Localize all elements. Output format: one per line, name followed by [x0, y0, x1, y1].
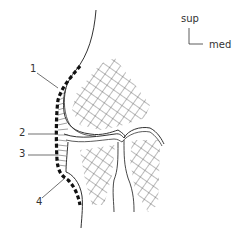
leader-4: [42, 178, 65, 198]
label-4: 4: [36, 197, 42, 207]
label-1: 1: [30, 64, 36, 74]
upper-bone: [64, 10, 161, 138]
orientation-indicator: [189, 28, 203, 44]
label-2: 2: [19, 128, 25, 138]
lower-left-bone: [66, 140, 120, 228]
orientation-sup-label: sup: [181, 14, 199, 24]
orientation-med-label: med: [209, 40, 231, 50]
label-3: 3: [19, 149, 25, 159]
leader-1: [37, 73, 58, 88]
lower-right-bone: [124, 135, 168, 215]
